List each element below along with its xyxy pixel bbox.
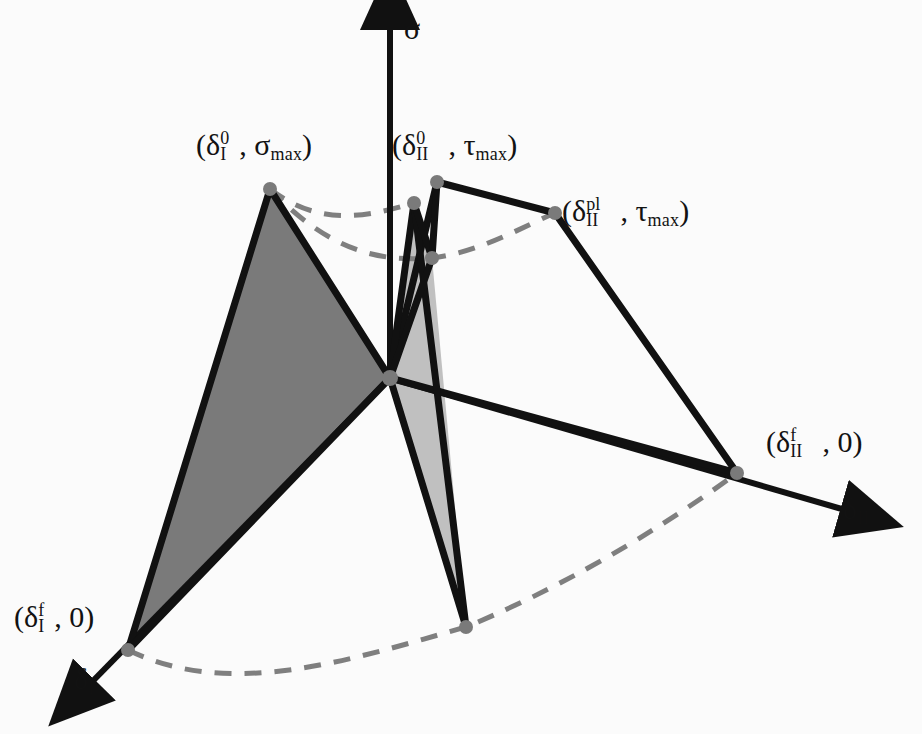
- label-mode-ii-peak: (δ0II, τmax): [392, 130, 517, 163]
- label-mode-ii-failure: (δfII, 0): [766, 427, 863, 457]
- vertex-dot-mode-ii-peak: [430, 175, 444, 189]
- axis-layer: [86, 18, 852, 688]
- vertex-dot-origin: [382, 370, 398, 386]
- greek-subscript: max: [648, 210, 680, 230]
- vertex-dot-mode-ii-failure: [730, 466, 744, 480]
- vertex-dot-mixed-peak-inner: [407, 196, 421, 210]
- label-mode-i-peak: (δ0I, σmax): [196, 130, 312, 163]
- vertex-dot-mixed-plateau-inner: [425, 251, 439, 265]
- figure-root: (δ0I, σmax) (δ0II, τmax) (δplII, τmax) (…: [0, 0, 922, 734]
- sigma-axis-label: σ: [404, 14, 420, 44]
- cohesive-law-diagram: [0, 0, 922, 734]
- axis-subscript: I: [88, 678, 94, 698]
- delta-ii-axis-label: δII: [843, 494, 870, 527]
- vertex-dot-mode-i-failure: [121, 643, 135, 657]
- greek-subscript: max: [271, 144, 303, 164]
- vertex-dot-mode-i-peak: [263, 182, 277, 196]
- greek-subscript: max: [476, 144, 508, 164]
- edge-ii-peak-plateau: [437, 182, 555, 213]
- label-mode-i-failure: (δfI, 0): [14, 602, 94, 632]
- axis-subscript: II: [857, 508, 869, 528]
- label-mode-ii-plateau: (δplII, τmax): [562, 196, 689, 229]
- vertex-dot-mode-ii-plateau: [548, 206, 562, 220]
- vertex-dot-mixed-failure-inner: [459, 620, 473, 634]
- edge-ii-peak-inner-plateau: [432, 182, 437, 258]
- delta-i-axis-label: δI: [74, 664, 94, 697]
